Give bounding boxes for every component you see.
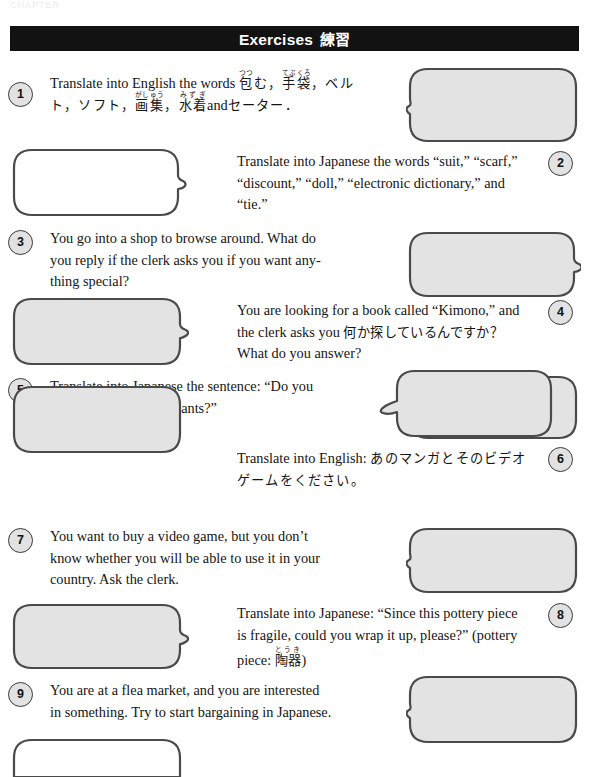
prompt-line: country. Ask the clerk. (50, 569, 350, 591)
prompt-line: piece: 陶器とうき) (237, 646, 542, 672)
exercise-1: 1 Translate into English the words 包つつむ，… (0, 66, 589, 144)
prompt-line: Translate into Japanese the words “suit,… (237, 151, 532, 173)
prompt-line: is fragile, could you wrap it up, please… (237, 625, 542, 647)
exercise-number-badge: 2 (548, 151, 573, 176)
exercise-number-badge: 9 (8, 682, 33, 707)
prompt-line: in something. Try to start bargaining in… (50, 702, 380, 724)
prompt-line: Translate into English: あのマンガとそのビデオ (237, 448, 537, 470)
prompt-line: You are looking for a book called “Kimon… (237, 300, 537, 322)
answer-bubble-6[interactable] (375, 368, 555, 440)
prompt-period: ． (285, 98, 299, 113)
term-mizugi: 水着みずぎ (179, 98, 207, 113)
prompt-conjunction: and (207, 97, 228, 113)
banner-title-english: Exercises (239, 31, 313, 49)
prompt-japanese-segment: 陶器とうき (275, 653, 302, 668)
exercise-prompt: You are looking for a book called “Kimon… (237, 300, 537, 365)
prompt-line: What do you answer? (237, 343, 537, 365)
exercise-prompt: Translate into Japanese the words “suit,… (237, 151, 532, 216)
prompt-line: You want to buy a video game, but you do… (50, 526, 350, 548)
exercise-prompt: Translate into English: あのマンガとそのビデオ ゲームを… (237, 448, 537, 491)
exercise-prompt: You go into a shop to browse around. Wha… (50, 228, 350, 293)
exercises-banner: Exercises 練習 (10, 26, 579, 51)
prompt-english-segment: the clerk asks you (237, 324, 340, 340)
page-running-head: CHAPTER (10, 0, 310, 12)
prompt-line: thing special? (50, 271, 350, 293)
answer-bubble[interactable] (406, 230, 581, 300)
prompt-line: You are at a flea market, and you are in… (50, 680, 380, 702)
term-gashuu: 画集がしゅう (135, 98, 164, 113)
exercise-number-badge: 6 (548, 447, 573, 472)
exercise-7: 7 You want to buy a video game, but you … (0, 524, 589, 600)
answer-bubble-bottom-clipped[interactable] (10, 737, 190, 777)
prompt-english-segment: piece: (237, 652, 271, 668)
exercise-number-badge: 8 (548, 603, 573, 628)
answer-bubble[interactable] (10, 384, 190, 456)
prompt-line: the clerk asks you 何か探しているんですか？ (237, 322, 537, 344)
answer-bubble[interactable] (406, 66, 581, 144)
answer-bubble[interactable] (406, 674, 581, 746)
prompt-line: Translate into Japanese: “Since this pot… (237, 603, 542, 625)
prompt-line: “discount,” “doll,” “electronic dictiona… (237, 173, 532, 195)
exercise-9: 9 You are at a flea market, and you are … (0, 678, 589, 738)
exercise-prompt: Translate into English the words 包つつむ，手袋… (50, 69, 380, 117)
prompt-line: “tie.” (237, 194, 532, 216)
banner-title-group: Exercises 練習 (239, 28, 350, 49)
banner-title-japanese: 練習 (320, 28, 350, 49)
exercise-number-badge: 4 (548, 300, 573, 325)
exercise-prompt: Translate into Japanese: “Since this pot… (237, 603, 542, 672)
prompt-close-paren: ) (302, 652, 307, 668)
prompt-japanese-segment: あのマンガとそのビデオ (370, 451, 526, 466)
exercise-prompt: You are at a flea market, and you are in… (50, 680, 380, 723)
answer-bubble[interactable] (10, 296, 190, 368)
prompt-line: know whether you will be able to use it … (50, 548, 350, 570)
prompt-line: you reply if the clerk asks you if you w… (50, 250, 350, 272)
term-seetaa: セーター (228, 98, 285, 113)
exercise-number-badge: 1 (8, 82, 33, 107)
term-tebukuro: 手袋てぶくろ (282, 76, 311, 91)
exercise-prompt: You want to buy a video game, but you do… (50, 526, 350, 591)
exercise-8: Translate into Japanese: “Since this pot… (0, 600, 589, 680)
term-tsutsumu: 包つつ (239, 76, 254, 91)
exercise-number-badge: 3 (8, 230, 33, 255)
prompt-japanese-segment: 何か探しているんですか？ (343, 325, 503, 340)
answer-bubble[interactable] (10, 147, 188, 219)
exercise-2: Translate into Japanese the words “suit,… (0, 146, 589, 222)
exercise-3: 3 You go into a shop to browse around. W… (0, 228, 589, 304)
prompt-line: You go into a shop to browse around. Wha… (50, 228, 350, 250)
exercise-number-badge: 7 (8, 528, 33, 553)
exercise-4: You are looking for a book called “Kimon… (0, 296, 589, 372)
term-sofuto: ソフト (78, 98, 121, 113)
prompt-japanese-segment: ゲームをください。 (237, 470, 537, 492)
exercise-6: Translate into English: あのマンガとそのビデオ ゲームを… (0, 444, 589, 516)
prompt-english-segment: Translate into English: (237, 450, 367, 466)
prompt-english-lead: Translate into English the words (50, 75, 235, 91)
answer-bubble[interactable] (406, 526, 581, 596)
term-touki: 陶器とうき (275, 653, 302, 668)
answer-bubble[interactable] (10, 602, 190, 672)
running-head-text: CHAPTER (10, 0, 60, 10)
